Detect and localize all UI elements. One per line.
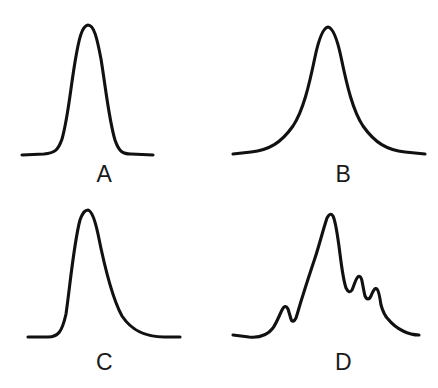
panel-a-label: A xyxy=(0,163,219,186)
panel-d-trace xyxy=(233,214,419,337)
panel-a: A xyxy=(0,0,219,194)
panel-d: D xyxy=(219,194,438,388)
panel-b: B xyxy=(219,0,438,194)
panel-a-trace xyxy=(22,25,153,155)
panel-c: C xyxy=(0,194,219,388)
panel-c-trace xyxy=(28,210,180,337)
panel-b-label: B xyxy=(219,163,438,186)
peak-shape-figure: A B C D xyxy=(0,0,438,388)
panel-d-label: D xyxy=(219,351,438,374)
panel-c-label: C xyxy=(0,351,219,374)
panel-b-trace xyxy=(233,27,425,154)
